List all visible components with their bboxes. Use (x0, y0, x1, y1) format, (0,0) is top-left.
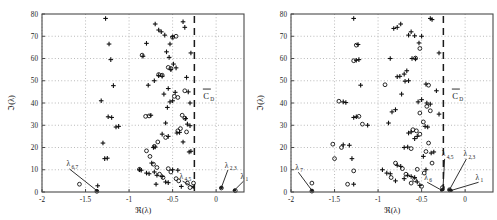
marker-plus (107, 42, 112, 47)
marker-circle (389, 176, 393, 180)
ytick-label: 10 (280, 166, 288, 174)
lambda-label-base: λ (295, 163, 299, 172)
marker-plus (412, 34, 417, 39)
marker-circle (346, 182, 350, 186)
cd-label-base: C (452, 91, 458, 101)
marker-circle (418, 47, 422, 51)
marker-plus (152, 78, 157, 83)
marker-circle (414, 129, 418, 133)
marker-plus (380, 167, 385, 172)
marker-plus (166, 86, 171, 91)
leader-line (69, 169, 96, 191)
x-axis-title: ℜ(λ) (135, 206, 152, 215)
xtick-label: -2 (288, 196, 294, 204)
marker-plus (405, 68, 410, 73)
marker-plus (165, 105, 170, 110)
ytick-label: 40 (280, 100, 288, 108)
marker-plus (415, 134, 420, 139)
marker-circle (427, 141, 431, 145)
leader-endpoint (441, 188, 444, 191)
marker-plus (168, 42, 173, 47)
marker-plus (108, 57, 113, 62)
marker-plus (182, 25, 187, 30)
marker-plus (188, 101, 193, 106)
marker-circle (409, 181, 413, 185)
marker-plus (398, 22, 403, 27)
lambda-label-base: λ (463, 149, 467, 158)
marker-plus (350, 156, 355, 161)
marker-circle (156, 140, 160, 144)
xtick-label: 0 (214, 196, 218, 204)
marker-plus (399, 92, 404, 97)
marker-circle (337, 99, 341, 103)
marker-plus (409, 30, 414, 35)
marker-plus (116, 124, 121, 129)
xtick-label: -1.5 (80, 196, 92, 204)
annotation-lam23: λ2,3 (220, 161, 237, 190)
marker-plus (144, 171, 149, 176)
marker-plus (103, 16, 108, 21)
marker-plus (153, 22, 158, 27)
marker-plus (146, 83, 151, 88)
lambda-label-sub: 7 (300, 167, 303, 173)
marker-plus (341, 100, 346, 105)
marker-circle (409, 147, 413, 151)
marker-plus (351, 182, 356, 187)
x-axis-title: ℜ(λ) (384, 206, 401, 215)
marker-plus (417, 41, 422, 46)
ytick-label: 70 (280, 33, 288, 41)
ytick-label: 80 (280, 11, 288, 19)
lambda-label-sub: 2,3 (468, 154, 475, 160)
marker-plus (416, 100, 421, 105)
marker-plus (99, 98, 104, 103)
lambda-label-sub: 6 (429, 177, 432, 183)
leader-endpoint (233, 189, 236, 192)
marker-plus (109, 115, 114, 120)
marker-plus (179, 184, 184, 189)
leader-endpoint (220, 186, 223, 189)
ytick-label: 50 (280, 77, 288, 85)
marker-plus (162, 92, 167, 97)
annotation-lam67: λ6,7 (66, 159, 98, 192)
marker-plus (162, 33, 167, 38)
ytick-label: 20 (280, 144, 288, 152)
ytick-label: 10 (31, 166, 39, 174)
marker-plus (111, 83, 116, 88)
ytick-label: 0 (283, 189, 287, 197)
marker-plus (154, 182, 159, 187)
panel-a-svg: CDλ6,7λ4,5λ2,3λ101020304050607080-2-1.5-… (0, 0, 248, 220)
axis-ticks: 01020304050607080-2-1.5-1-0.50 (280, 11, 468, 204)
marker-plus (160, 132, 165, 137)
marker-plus (434, 88, 439, 93)
data-markers (78, 16, 238, 193)
marker-plus (357, 57, 362, 62)
ytick-label: 80 (31, 11, 39, 19)
marker-plus (174, 66, 179, 71)
ytick-label: 40 (31, 100, 39, 108)
lambda-label-sub: 1 (246, 176, 248, 182)
marker-circle (148, 155, 152, 159)
marker-circle (183, 89, 187, 93)
marker-circle (418, 132, 422, 136)
marker-circle (418, 111, 422, 115)
marker-circle (166, 167, 170, 171)
ytick-label: 50 (31, 77, 39, 85)
critical-line-label: CD (452, 89, 464, 102)
marker-circle (185, 130, 189, 134)
leader-line (234, 181, 243, 190)
lambda-label-base: λ (442, 149, 446, 158)
marker-circle (158, 172, 162, 176)
marker-plus (147, 171, 152, 176)
marker-plus (173, 90, 178, 95)
leader-line (298, 172, 312, 190)
marker-plus (351, 16, 356, 21)
marker-circle (192, 181, 196, 185)
ytick-label: 70 (31, 33, 39, 41)
marker-plus (351, 115, 356, 120)
xtick-label: -0.5 (416, 196, 428, 204)
marker-plus (181, 19, 186, 24)
marker-circle (352, 169, 356, 173)
marker-plus (403, 79, 408, 84)
marker-plus (395, 74, 400, 79)
marker-circle (430, 161, 434, 165)
